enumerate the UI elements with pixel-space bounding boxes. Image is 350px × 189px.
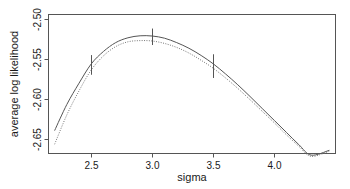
likelihood-vs-sigma-chart: 2.53.03.54.0 -2.50-2.55-2.60-2.65 sigma …: [0, 0, 350, 189]
x-tick-label: 2.5: [85, 160, 99, 171]
x-tick-label: 3.0: [146, 160, 160, 171]
y-tick-label: -2.60: [32, 88, 43, 111]
x-tick-label: 4.0: [268, 160, 282, 171]
x-axis-title: sigma: [177, 171, 207, 183]
y-tick-label: -2.50: [32, 8, 43, 31]
y-tick-label: -2.55: [32, 48, 43, 71]
y-axis-title: average log likelihood: [8, 31, 20, 137]
x-tick-label: 3.5: [207, 160, 221, 171]
chart-background: [0, 0, 350, 189]
y-tick-label: -2.65: [32, 128, 43, 151]
chart-screenshot: 2.53.03.54.0 -2.50-2.55-2.60-2.65 sigma …: [0, 0, 350, 189]
